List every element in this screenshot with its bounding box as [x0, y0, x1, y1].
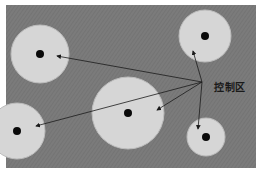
control-zone-label: 控制区: [214, 79, 246, 94]
zone-center-dot: [36, 50, 44, 58]
zone-center-dot: [201, 32, 209, 40]
zone-center-dot: [13, 127, 21, 135]
zone-center-dot: [124, 109, 132, 117]
zone-center-dot: [202, 133, 210, 141]
